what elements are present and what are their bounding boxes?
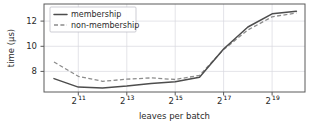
x-axis-label: leaves per batch <box>139 111 210 121</box>
svg-text:2: 2 <box>120 96 125 106</box>
x-tick-labels: 2 11 2 13 2 15 2 17 2 19 <box>72 94 280 106</box>
svg-text:2: 2 <box>168 96 173 106</box>
line-chart-canvas: 8 10 12 2 11 2 13 2 15 2 17 2 <box>0 0 319 123</box>
y-tick-label-0: 8 <box>32 66 37 76</box>
svg-text:17: 17 <box>224 94 232 101</box>
chart-figure: 8 10 12 2 11 2 13 2 15 2 17 2 <box>0 0 319 123</box>
legend-label-non-membership: non-membership <box>71 21 139 30</box>
y-tickmarks <box>41 21 45 71</box>
svg-text:13: 13 <box>127 94 135 101</box>
svg-text:11: 11 <box>78 94 86 101</box>
y-tick-labels: 8 10 12 <box>26 16 37 76</box>
svg-text:2: 2 <box>217 96 222 106</box>
x-tick-label-0: 2 11 <box>72 94 87 106</box>
svg-text:19: 19 <box>272 94 280 101</box>
y-tick-label-2: 12 <box>26 16 37 26</box>
svg-text:2: 2 <box>72 96 77 106</box>
x-tick-label-2: 2 15 <box>168 94 183 106</box>
x-tick-label-3: 2 17 <box>217 94 232 106</box>
legend: membership non-membership <box>50 7 139 32</box>
legend-label-membership: membership <box>71 10 121 19</box>
x-tick-label-4: 2 19 <box>265 94 280 106</box>
svg-text:15: 15 <box>175 94 183 101</box>
x-tick-label-1: 2 13 <box>120 94 135 106</box>
y-axis-label: time (µs) <box>6 29 16 67</box>
svg-text:2: 2 <box>265 96 270 106</box>
y-tick-label-1: 10 <box>26 41 37 51</box>
